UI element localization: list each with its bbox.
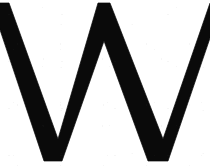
letter-w-glyph	[0, 0, 210, 166]
image-canvas	[0, 0, 210, 166]
